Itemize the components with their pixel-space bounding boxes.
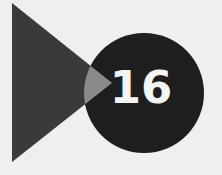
chapter-badge: 16 <box>0 0 222 175</box>
chapter-number: 16 <box>110 61 173 114</box>
